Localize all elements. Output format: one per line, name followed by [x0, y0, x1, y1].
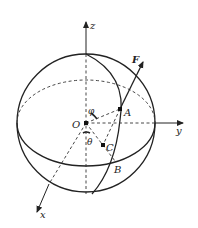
x-axis-inner [49, 123, 86, 184]
label-phi: φ [88, 106, 95, 116]
label-B: B [113, 164, 121, 175]
label-A: A [123, 107, 131, 118]
label-O: O [72, 119, 80, 130]
label-y: y [175, 125, 182, 136]
label-theta: θ [87, 137, 93, 147]
x-axis-outer [37, 184, 49, 212]
label-F: F [131, 54, 140, 65]
label-C: C [106, 142, 114, 153]
point-C [101, 143, 105, 147]
label-z: z [89, 20, 96, 31]
point-O [84, 121, 88, 125]
theta-arc [83, 132, 90, 133]
force-vector [120, 62, 143, 109]
label-x: x [40, 209, 46, 220]
point-A [118, 107, 122, 111]
sphere-diagram: z y x F O A B C φ θ [0, 0, 198, 228]
